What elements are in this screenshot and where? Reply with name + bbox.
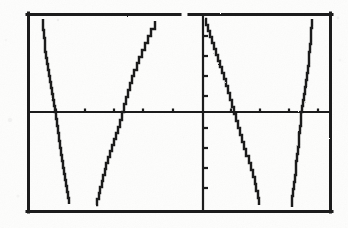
calculator-screen-plot [0,0,348,228]
axes [28,16,331,210]
scanned-page-background [0,0,348,228]
